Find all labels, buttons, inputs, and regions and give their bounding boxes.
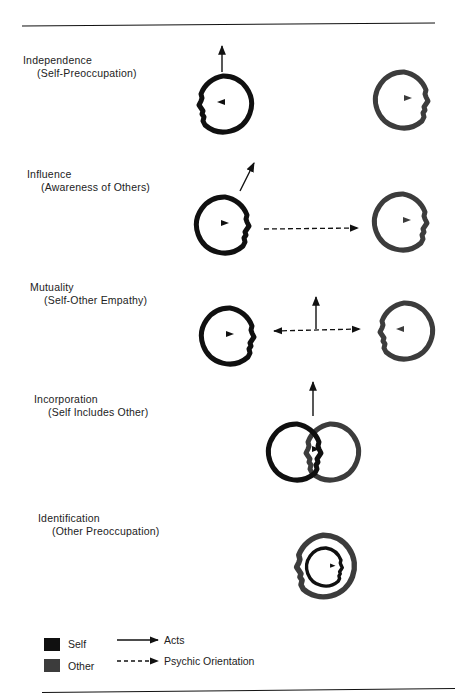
- legend-other-label: Other: [68, 660, 94, 672]
- mutuality-self-head: [201, 308, 254, 364]
- incorporation-self-head: [268, 424, 321, 480]
- influence-self-head: [196, 197, 249, 253]
- identification-self-head: [307, 548, 343, 586]
- influence-other-head: [374, 194, 427, 250]
- legend-self-swatch: [44, 638, 60, 651]
- mutuality-other-head: [380, 303, 433, 359]
- psychic-orientation-double-arrow: [274, 329, 360, 331]
- legend-psychic-label: Psychic Orientation: [164, 655, 254, 667]
- legend-other-swatch: [44, 659, 60, 672]
- psychic-orientation-arrow: [264, 228, 358, 229]
- legend-acts-label: Acts: [164, 634, 184, 646]
- independence-other-head: [375, 72, 428, 128]
- diagram-canvas: [0, 0, 466, 697]
- legend-self-label: Self: [68, 638, 86, 650]
- independence-self-head: [199, 76, 252, 132]
- acts-arrow-diagonal: [240, 163, 254, 191]
